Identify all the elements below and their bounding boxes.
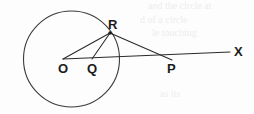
segment-layer <box>63 33 230 60</box>
point-label-O: O <box>58 62 68 75</box>
segment-O-R <box>63 33 110 59</box>
point-label-R: R <box>108 18 117 31</box>
point-label-P: P <box>167 62 176 75</box>
point-label-X: X <box>234 45 243 58</box>
geometry-figure: and the circle at d of a circle le touch… <box>0 0 254 114</box>
figure-canvas <box>0 0 254 114</box>
segment-Q-R <box>92 33 110 59</box>
point-label-Q: Q <box>87 62 97 75</box>
ray-O-to-X <box>63 52 230 59</box>
